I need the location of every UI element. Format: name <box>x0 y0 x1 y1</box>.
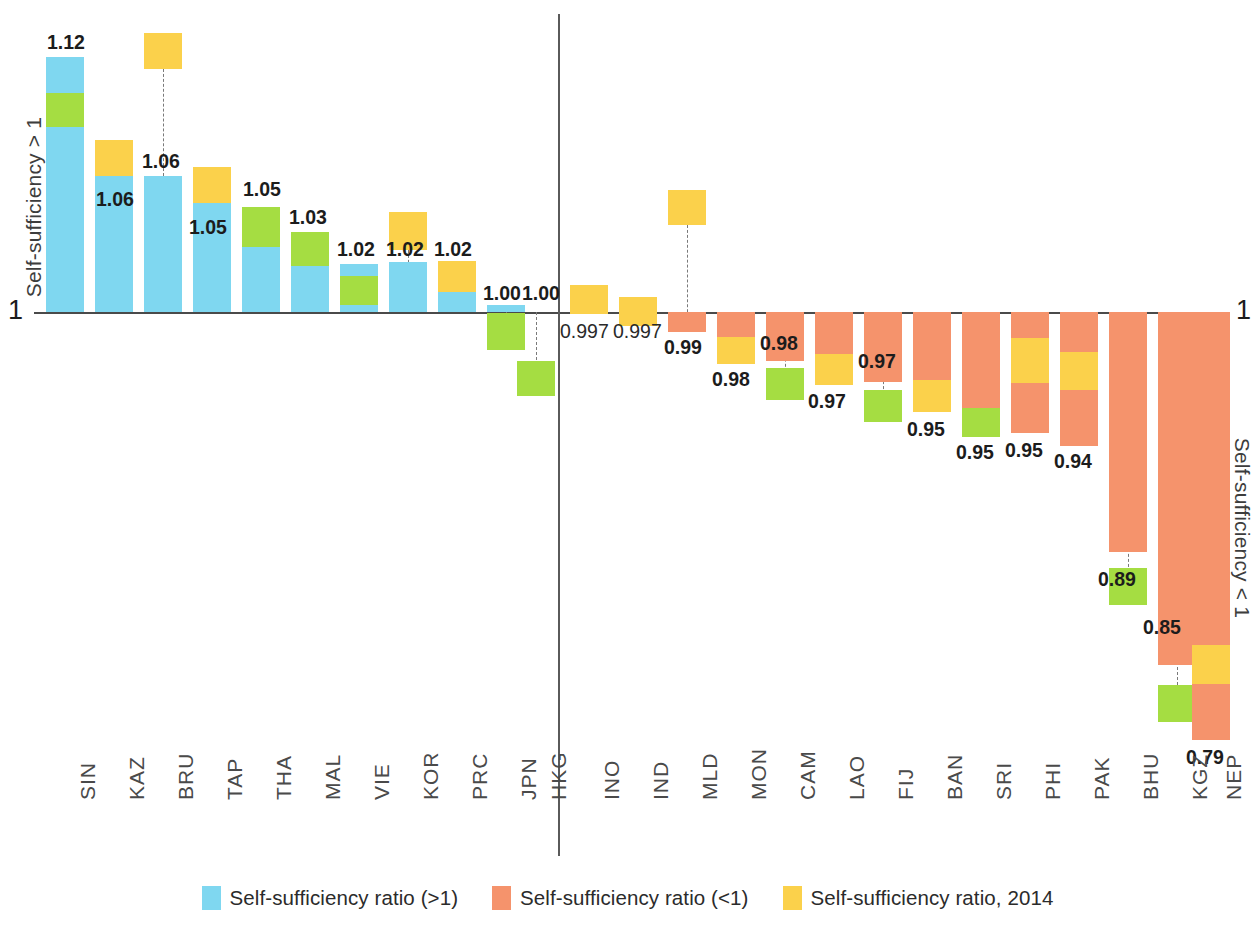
category-label-cam: CAM <box>796 750 820 800</box>
bar-2014-marker[interactable] <box>193 167 231 203</box>
category-label-bhu: BHU <box>1139 753 1163 800</box>
blue-square-swatch <box>202 886 221 910</box>
y-axis-label-right: Self-sufficiency < 1 <box>1230 428 1254 628</box>
y-axis-label-left: Self-sufficiency > 1 <box>22 107 46 307</box>
bar-group-kgz[interactable] <box>1158 0 1196 780</box>
bar-group-hkg[interactable] <box>517 0 555 780</box>
bar-group-vie[interactable] <box>340 0 378 780</box>
legend-item-1[interactable]: Self-sufficiency ratio (<1) <box>492 886 748 910</box>
legend-label: Self-sufficiency ratio, 2014 <box>811 886 1054 910</box>
bar-value-label-cam: 0.98 <box>760 334 798 354</box>
bar-value-label-lao: 0.97 <box>808 392 846 412</box>
bar-green-marker[interactable] <box>517 361 555 396</box>
bar-2014-marker[interactable] <box>1060 352 1098 390</box>
axis-value-right: 1 <box>1236 297 1251 324</box>
category-label-sri: SRI <box>992 762 1016 800</box>
leader-line <box>536 312 537 365</box>
bar-value-label-mal: 1.03 <box>289 208 327 228</box>
category-label-kgz: KGZ <box>1188 754 1212 800</box>
legend-item-2[interactable]: Self-sufficiency ratio, 2014 <box>783 886 1054 910</box>
bar-green-marker[interactable] <box>766 368 804 400</box>
bar-group-ind[interactable] <box>619 0 657 780</box>
category-label-prc: PRC <box>468 753 492 800</box>
bar-group-ino[interactable] <box>570 0 608 780</box>
bar-group-kor[interactable] <box>389 0 427 780</box>
bar-value-label-sin: 1.12 <box>47 33 85 53</box>
bar-value-label-ind: 0.997 <box>613 322 662 342</box>
category-label-kaz: KAZ <box>125 756 149 800</box>
legend: Self-sufficiency ratio (>1)Self-sufficie… <box>0 886 1255 910</box>
bar-2014-marker[interactable] <box>717 337 755 364</box>
bar-2014-marker[interactable] <box>570 285 608 314</box>
legend-item-0[interactable]: Self-sufficiency ratio (>1) <box>202 886 458 910</box>
bar-2014-marker[interactable] <box>1192 645 1230 684</box>
bar-value-label-mon: 0.98 <box>712 370 750 390</box>
bar-value-label-bhu: 0.89 <box>1098 570 1136 590</box>
yellow-square-swatch <box>783 886 802 910</box>
bar-group-mld[interactable] <box>668 0 706 780</box>
bar-value-label-prc: 1.02 <box>434 240 472 260</box>
bar-2014-marker[interactable] <box>438 261 476 292</box>
category-label-lao: LAO <box>845 755 869 800</box>
category-label-vie: VIE <box>370 763 394 800</box>
bar-green-marker[interactable] <box>46 93 84 127</box>
category-label-mon: MON <box>747 748 771 800</box>
bar-group-phi[interactable] <box>1011 0 1049 780</box>
bar-2014-marker[interactable] <box>144 33 182 69</box>
category-label-tap: TAP <box>223 758 247 800</box>
legend-label: Self-sufficiency ratio (<1) <box>520 886 748 910</box>
bar-group-bru[interactable] <box>144 0 182 780</box>
category-label-hkg: HKG <box>547 751 571 800</box>
bar-green-marker[interactable] <box>1158 685 1196 722</box>
bar-main-segment[interactable] <box>144 176 182 312</box>
bar-group-nep[interactable] <box>1192 0 1230 780</box>
bar-value-label-pak: 0.94 <box>1054 452 1092 472</box>
bar-group-sri[interactable] <box>962 0 1000 780</box>
bar-value-label-kaz: 1.06 <box>96 190 134 210</box>
bar-group-tha[interactable] <box>242 0 280 780</box>
bar-group-kaz[interactable] <box>95 0 133 780</box>
bar-group-ban[interactable] <box>913 0 951 780</box>
bar-value-label-tha: 1.05 <box>243 180 281 200</box>
bar-green-marker[interactable] <box>242 207 280 247</box>
category-label-ban: BAN <box>943 754 967 800</box>
bar-group-prc[interactable] <box>438 0 476 780</box>
bar-main-segment[interactable] <box>668 312 706 332</box>
bar-green-marker[interactable] <box>340 276 378 305</box>
category-label-jpn: JPN <box>517 757 541 800</box>
bar-green-marker[interactable] <box>864 390 902 422</box>
bar-group-mon[interactable] <box>717 0 755 780</box>
bar-green-marker[interactable] <box>291 232 329 266</box>
bar-group-pak[interactable] <box>1060 0 1098 780</box>
bar-main-segment[interactable] <box>1109 312 1147 552</box>
category-label-bru: BRU <box>174 753 198 800</box>
bar-2014-marker[interactable] <box>95 140 133 176</box>
bar-value-label-sri: 0.95 <box>956 443 994 463</box>
bar-2014-marker[interactable] <box>1011 338 1049 383</box>
bar-group-tap[interactable] <box>193 0 231 780</box>
bar-group-cam[interactable] <box>766 0 804 780</box>
bar-group-bhu[interactable] <box>1109 0 1147 780</box>
bar-main-segment[interactable] <box>1158 312 1196 665</box>
orange-square-swatch <box>492 886 511 910</box>
bar-group-mal[interactable] <box>291 0 329 780</box>
category-label-tha: THA <box>272 755 296 800</box>
category-label-nep: NEP <box>1222 754 1246 800</box>
bar-2014-marker[interactable] <box>815 354 853 385</box>
category-label-fij: FIJ <box>894 768 918 800</box>
bar-green-marker[interactable] <box>962 408 1000 437</box>
center-divider <box>558 14 560 856</box>
bar-value-label-kor: 1.02 <box>386 240 424 260</box>
bar-2014-marker[interactable] <box>668 190 706 225</box>
bar-main-segment[interactable] <box>389 262 427 312</box>
bar-group-sin[interactable] <box>46 0 84 780</box>
self-sufficiency-bar-chart: 1 1 Self-sufficiency > 1 Self-sufficienc… <box>0 0 1255 926</box>
legend-label: Self-sufficiency ratio (>1) <box>230 886 458 910</box>
bar-main-segment[interactable] <box>962 312 1000 408</box>
category-label-ino: INO <box>600 760 624 800</box>
category-label-kor: KOR <box>419 751 443 800</box>
bar-value-label-tap: 1.05 <box>189 218 227 238</box>
category-label-ind: IND <box>649 761 673 800</box>
bar-group-fij[interactable] <box>864 0 902 780</box>
bar-2014-marker[interactable] <box>913 380 951 412</box>
